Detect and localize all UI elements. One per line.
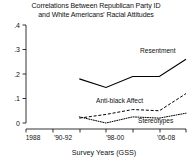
x-tick-label-3: '06-08 — [157, 134, 175, 141]
series-label-stereotypes: Stereotypes — [138, 117, 174, 125]
series-label-anti-black-affect: Anti-black Affect — [96, 97, 143, 104]
chart-plot-area: .4 .3 .2 .1 0 1988 '90-92 '98-00 '06-08 … — [0, 0, 192, 162]
y-tick-label-4: 0 — [16, 120, 20, 127]
y-tick-label-1: .3 — [14, 46, 20, 53]
y-tick-label-2: .2 — [14, 71, 20, 78]
y-tick-label-3: .1 — [14, 95, 20, 102]
series-line-resentment — [79, 59, 186, 87]
x-tick-label-0: 1988 — [26, 134, 41, 141]
x-tick-label-2: '98-00 — [106, 134, 124, 141]
y-axis-ticks — [23, 25, 27, 123]
x-axis-ticks — [26, 129, 186, 133]
y-tick-label-0: .4 — [14, 22, 20, 29]
x-axis-title: Survey Years (GSS) — [72, 148, 136, 157]
series-label-resentment: Resentment — [140, 47, 176, 54]
chart-container: Correlations Between Republican Party ID… — [0, 0, 192, 162]
x-tick-label-1: '90-92 — [54, 134, 72, 141]
